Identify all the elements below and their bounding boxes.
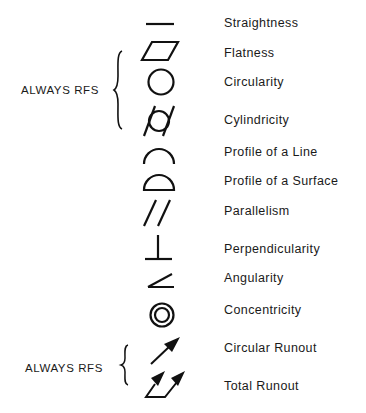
label-profile-of-a-line: Profile of a Line — [224, 145, 318, 159]
total-runout-icon — [143, 370, 189, 400]
label-angularity: Angularity — [224, 271, 284, 285]
concentricity-icon — [148, 301, 176, 329]
always-rfs-label-bottom: ALWAYS RFS — [25, 362, 103, 374]
circular-runout-icon — [148, 336, 182, 366]
label-cylindricity: Cylindricity — [224, 113, 289, 127]
brace-bottom-icon — [119, 344, 131, 386]
label-circular-runout: Circular Runout — [224, 341, 317, 355]
brace-top-icon — [112, 50, 126, 130]
profile-of-a-surface-icon — [141, 170, 177, 192]
cylindricity-icon — [141, 104, 177, 138]
label-perpendicularity: Perpendicularity — [224, 242, 320, 256]
label-total-runout: Total Runout — [224, 379, 299, 393]
perpendicularity-icon — [144, 234, 174, 262]
circularity-icon — [146, 67, 176, 97]
label-profile-of-a-surface: Profile of a Surface — [224, 174, 338, 188]
profile-of-a-line-icon — [141, 144, 177, 166]
label-flatness: Flatness — [224, 46, 274, 60]
parallelism-icon — [142, 198, 174, 228]
straightness-icon — [145, 22, 175, 26]
label-circularity: Circularity — [224, 75, 284, 89]
label-parallelism: Parallelism — [224, 204, 290, 218]
label-concentricity: Concentricity — [224, 303, 301, 317]
angularity-icon — [146, 272, 176, 292]
always-rfs-label-top: ALWAYS RFS — [21, 84, 99, 96]
flatness-icon — [140, 40, 180, 62]
label-straightness: Straightness — [224, 16, 298, 30]
